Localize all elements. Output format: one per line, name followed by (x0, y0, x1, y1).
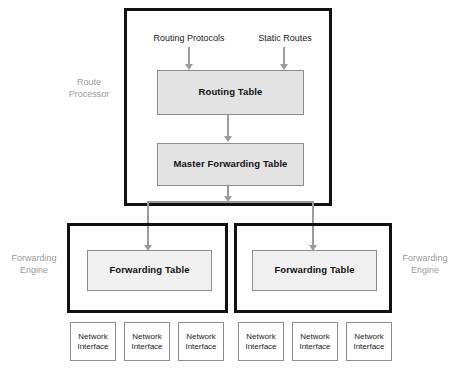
network-interface-left-1: Network Interface (70, 322, 116, 361)
route-processor-label-line2: Processor (58, 89, 120, 101)
network-interface-right-2-line2: Interface (299, 342, 330, 352)
network-interface-right-3-line1: Network (354, 332, 383, 342)
forwarding-table-left-label: Forwarding Table (109, 265, 189, 275)
network-interface-right-1-line1: Network (246, 332, 275, 342)
forwarding-engine-left-label-line2: Engine (2, 265, 66, 277)
forwarding-table-left-box: Forwarding Table (87, 250, 212, 291)
network-interface-left-1-line2: Interface (77, 342, 108, 352)
network-interface-left-1-line1: Network (78, 332, 107, 342)
network-interface-right-3-line2: Interface (353, 342, 384, 352)
forwarding-engine-right-label: Forwarding Engine (393, 253, 457, 276)
network-interface-right-2-line1: Network (300, 332, 329, 342)
network-interface-left-2-line2: Interface (131, 342, 162, 352)
forwarding-table-right-box: Forwarding Table (252, 250, 377, 291)
network-interface-right-3: Network Interface (346, 322, 392, 361)
routing-table-label: Routing Table (199, 87, 263, 97)
static-routes-label: Static Routes (245, 33, 325, 43)
network-interface-left-3-line1: Network (186, 332, 215, 342)
network-interface-right-2: Network Interface (292, 322, 338, 361)
routing-table-box: Routing Table (157, 70, 304, 115)
route-processor-label-line1: Route (58, 77, 120, 89)
route-processor-label: Route Processor (58, 77, 120, 100)
forwarding-engine-left-label-line1: Forwarding (2, 253, 66, 265)
network-interface-right-1-line2: Interface (245, 342, 276, 352)
router-architecture-diagram: Route Processor Routing Protocols Static… (0, 0, 457, 371)
network-interface-left-3: Network Interface (178, 322, 224, 361)
master-forwarding-table-box: Master Forwarding Table (157, 143, 304, 186)
forwarding-table-right-label: Forwarding Table (274, 265, 354, 275)
master-forwarding-table-label: Master Forwarding Table (173, 159, 287, 169)
forwarding-engine-right-label-line1: Forwarding (393, 253, 457, 265)
network-interface-left-2-line1: Network (132, 332, 161, 342)
network-interface-left-2: Network Interface (124, 322, 170, 361)
forwarding-engine-right-label-line2: Engine (393, 265, 457, 277)
network-interface-left-3-line2: Interface (185, 342, 216, 352)
routing-protocols-label: Routing Protocols (137, 33, 241, 43)
forwarding-engine-left-label: Forwarding Engine (2, 253, 66, 276)
network-interface-right-1: Network Interface (238, 322, 284, 361)
